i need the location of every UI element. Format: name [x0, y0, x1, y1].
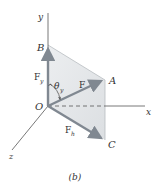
Fy-label: F y	[34, 72, 44, 85]
z-axis-label: z	[8, 152, 14, 161]
figure-caption: (b)	[69, 172, 82, 182]
vector-diagram: y x z B A C O F y F F h θ y (b)	[0, 0, 162, 193]
svg-text:h: h	[71, 130, 75, 137]
z-axis	[12, 106, 48, 150]
point-C-label: C	[108, 139, 116, 150]
x-axis-label: x	[146, 107, 151, 117]
svg-text:y: y	[59, 86, 64, 94]
Fh-label: F h	[65, 125, 75, 137]
origin-label: O	[35, 101, 43, 112]
svg-text:F: F	[79, 80, 85, 90]
y-axis-label: y	[37, 12, 44, 22]
F-label: F	[79, 80, 85, 90]
svg-text:y: y	[39, 77, 44, 85]
point-A-label: A	[108, 75, 116, 86]
point-B-label: B	[36, 42, 44, 53]
